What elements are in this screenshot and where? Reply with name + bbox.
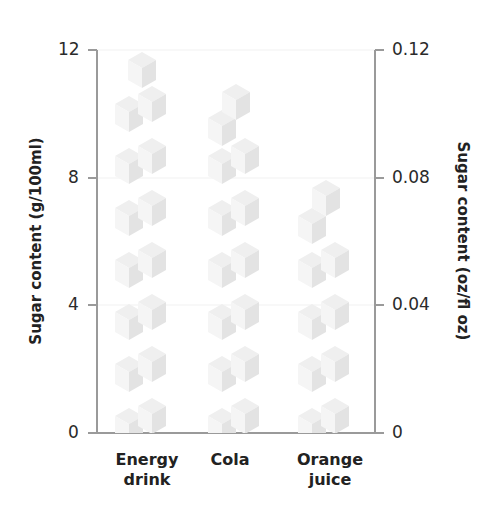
right-tick-0: 0 bbox=[392, 422, 403, 442]
right-y-axis bbox=[375, 50, 384, 433]
category-label-energy-drink: Energy drink bbox=[107, 450, 187, 490]
bar-energy-drink bbox=[115, 52, 166, 444]
category-line: juice bbox=[290, 470, 370, 490]
right-axis-title: Sugar content (oz/fl oz) bbox=[454, 142, 472, 341]
category-label-cola: Cola bbox=[200, 450, 260, 470]
bar-orange-juice bbox=[298, 180, 349, 444]
right-tick-0.12: 0.12 bbox=[392, 39, 430, 59]
left-tick-8: 8 bbox=[68, 167, 79, 187]
category-line: Cola bbox=[200, 450, 260, 470]
left-y-axis bbox=[88, 50, 97, 433]
bar-cola bbox=[208, 84, 259, 444]
category-line: Energy bbox=[107, 450, 187, 470]
left-tick-12: 12 bbox=[58, 39, 80, 59]
category-line: drink bbox=[107, 470, 187, 490]
category-line: Orange bbox=[290, 450, 370, 470]
left-tick-0: 0 bbox=[68, 422, 79, 442]
right-tick-0.08: 0.08 bbox=[392, 167, 430, 187]
right-tick-0.04: 0.04 bbox=[392, 294, 430, 314]
left-axis-title: Sugar content (g/100ml) bbox=[27, 137, 45, 344]
left-tick-4: 4 bbox=[68, 294, 79, 314]
category-label-orange-juice: Orange juice bbox=[290, 450, 370, 490]
